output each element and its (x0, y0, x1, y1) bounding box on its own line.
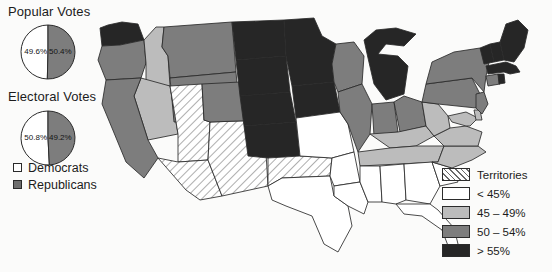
legend-item-territories: Territories (442, 165, 546, 184)
state-indiana (372, 102, 398, 136)
legend-item-over-55: > 55% (442, 241, 546, 260)
state-nebraska (240, 92, 296, 126)
legend-label-over-55: > 55% (477, 245, 510, 257)
state-maine (500, 20, 528, 62)
party-key-item-democrats: Democrats (13, 159, 97, 176)
state-michigan (364, 28, 416, 100)
party-key-item-republicans: Republicans (13, 176, 97, 193)
electoral-democrat-pct: 50.8% (24, 134, 47, 142)
legend-swatch-50-54-icon (442, 225, 470, 238)
popular-democrat-pct: 49.6% (24, 48, 47, 56)
electoral-votes-title: Electoral Votes (8, 89, 96, 104)
state-north-dakota (232, 20, 286, 60)
state-oregon (98, 40, 146, 80)
popular-republican-pct: 50.4% (49, 48, 72, 56)
state-maryland (448, 112, 478, 126)
legend-swatch-under-45-icon (442, 187, 470, 200)
state-alabama (380, 164, 406, 204)
state-kansas (244, 122, 300, 158)
legend-swatch-45-49-icon (442, 206, 470, 219)
electoral-republican-pct: 49.2% (49, 134, 72, 142)
party-key: Democrats Republicans (13, 159, 97, 193)
popular-votes-pie-chart: 49.6% 50.4% (20, 24, 76, 80)
state-rhode-island (498, 74, 505, 84)
popular-votes-title: Popular Votes (8, 4, 90, 19)
state-montana (162, 22, 236, 78)
legend-label-45-49: 45 – 49% (477, 207, 526, 219)
map-legend: Territories < 45% 45 – 49% 50 – 54% > 55… (442, 165, 546, 260)
democrats-label: Democrats (28, 161, 88, 175)
electoral-votes-pie-chart: 50.8% 49.2% (20, 110, 76, 166)
election-map-figure: Popular Votes 49.6% 50.4% Electoral Vote… (0, 0, 552, 272)
legend-item-under-45: < 45% (442, 184, 546, 203)
legend-label-territories: Territories (477, 169, 527, 181)
state-arkansas (330, 152, 360, 186)
legend-item-50-54: 50 – 54% (442, 222, 546, 241)
state-south-dakota (236, 56, 290, 96)
legend-swatch-over-55-icon (442, 244, 470, 257)
legend-item-45-49: 45 – 49% (442, 203, 546, 222)
state-minnesota (284, 18, 336, 86)
democrats-swatch-icon (13, 163, 22, 172)
legend-swatch-territories-icon (442, 168, 470, 181)
legend-label-under-45: < 45% (477, 188, 510, 200)
legend-label-50-54: 50 – 54% (477, 226, 526, 238)
state-massachusetts (486, 62, 520, 74)
republicans-swatch-icon (13, 180, 22, 189)
